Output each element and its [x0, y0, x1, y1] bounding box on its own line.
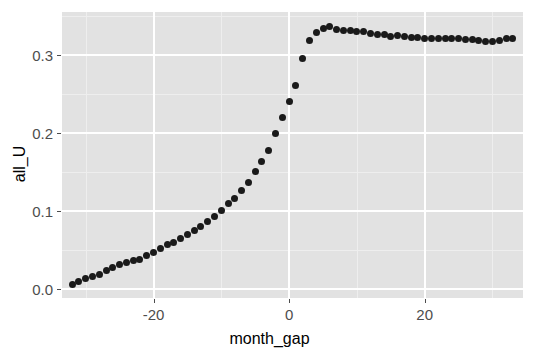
data-point — [299, 55, 306, 62]
x-tick-mark — [289, 299, 290, 303]
data-point — [96, 271, 103, 278]
data-point — [225, 200, 232, 207]
gridline-minor-horizontal — [62, 94, 523, 95]
data-point — [204, 218, 211, 225]
data-point — [218, 207, 225, 214]
x-tick-mark — [154, 299, 155, 303]
data-point — [272, 130, 279, 137]
gridline-major-vertical — [288, 12, 290, 298]
data-point — [89, 273, 96, 280]
data-point — [265, 147, 272, 154]
y-tick-mark — [57, 55, 61, 56]
chart-root: 0.00.10.20.3-20020 month_gap all_U — [0, 0, 539, 355]
data-point — [401, 33, 408, 40]
data-point — [211, 213, 218, 220]
gridline-major-horizontal — [62, 288, 523, 290]
x-axis-title: month_gap — [0, 330, 539, 348]
data-point — [238, 187, 245, 194]
x-tick-mark — [425, 299, 426, 303]
data-point — [496, 37, 503, 44]
data-point — [435, 35, 442, 42]
data-point — [177, 235, 184, 242]
data-point — [428, 35, 435, 42]
data-point — [170, 239, 177, 246]
data-point — [123, 259, 130, 266]
data-point — [462, 36, 469, 43]
data-point — [367, 30, 374, 37]
y-tick-label: 0.3 — [0, 48, 53, 63]
y-axis-title: all_U — [11, 84, 29, 244]
gridline-major-horizontal — [62, 132, 523, 134]
y-tick-mark — [57, 289, 61, 290]
gridline-minor-horizontal — [62, 16, 523, 17]
data-point — [184, 231, 191, 238]
data-point — [245, 179, 252, 186]
gridline-major-horizontal — [62, 54, 523, 56]
data-point — [340, 27, 347, 34]
gridline-major-vertical — [424, 12, 426, 298]
x-tick-label: -20 — [143, 307, 165, 322]
data-point — [258, 158, 265, 165]
data-point — [509, 35, 516, 42]
y-tick-mark — [57, 133, 61, 134]
data-point — [150, 249, 157, 256]
plot-panel — [62, 12, 523, 298]
data-point — [252, 168, 259, 175]
data-point — [306, 37, 313, 44]
gridline-minor-horizontal — [62, 172, 523, 173]
data-point — [279, 114, 286, 121]
x-tick-label: 20 — [416, 307, 433, 322]
y-tick-label: 0.0 — [0, 281, 53, 296]
x-tick-label: 0 — [285, 307, 293, 322]
data-point — [313, 29, 320, 36]
y-tick-mark — [57, 211, 61, 212]
data-point — [286, 98, 293, 105]
data-point — [489, 38, 496, 45]
data-point — [374, 31, 381, 38]
data-point — [157, 245, 164, 252]
data-point — [231, 195, 238, 202]
gridline-major-horizontal — [62, 210, 523, 212]
gridline-minor-horizontal — [62, 250, 523, 251]
data-point — [197, 223, 204, 230]
data-point — [292, 82, 299, 89]
